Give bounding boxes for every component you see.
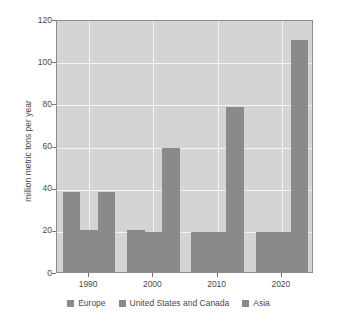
x-axis-tick-label: 1990	[68, 279, 108, 289]
legend-item[interactable]: Europe	[67, 298, 105, 308]
bar	[145, 232, 163, 272]
x-axis-tick-mark	[88, 273, 89, 277]
bar	[209, 232, 227, 272]
legend-swatch-icon	[67, 300, 74, 307]
legend-label: Asia	[253, 298, 270, 308]
bar	[127, 230, 145, 272]
legend-swatch-icon	[119, 300, 126, 307]
x-axis-tick-labels: 1990200020102020	[56, 279, 313, 291]
bar	[98, 192, 116, 272]
x-axis-tick-label: 2020	[261, 279, 301, 289]
x-axis-tick-mark	[152, 273, 153, 277]
legend-swatch-icon	[242, 300, 249, 307]
x-axis-tick-label: 2010	[197, 279, 237, 289]
bar	[273, 232, 291, 272]
bar	[291, 40, 309, 272]
y-axis-label: million metric tons per year	[23, 61, 33, 241]
chart-legend: EuropeUnited States and CanadaAsia	[0, 298, 337, 308]
bar	[162, 148, 180, 272]
x-axis-tick-mark	[217, 273, 218, 277]
gridline	[57, 190, 312, 191]
x-axis-tick-mark	[281, 273, 282, 277]
x-axis-tick-label: 2000	[132, 279, 172, 289]
bar	[226, 107, 244, 273]
gridline	[57, 63, 312, 64]
chart-figure: 020406080100120 million metric tons per …	[0, 0, 337, 322]
legend-label: United States and Canada	[130, 298, 230, 308]
gridline	[57, 105, 312, 106]
plot-area	[56, 20, 313, 273]
legend-item[interactable]: Asia	[242, 298, 270, 308]
gridline	[57, 148, 312, 149]
legend-item[interactable]: United States and Canada	[119, 298, 230, 308]
bar	[256, 232, 274, 272]
legend-label: Europe	[78, 298, 105, 308]
bar	[80, 230, 98, 272]
bar	[63, 192, 81, 272]
bar	[191, 232, 209, 272]
